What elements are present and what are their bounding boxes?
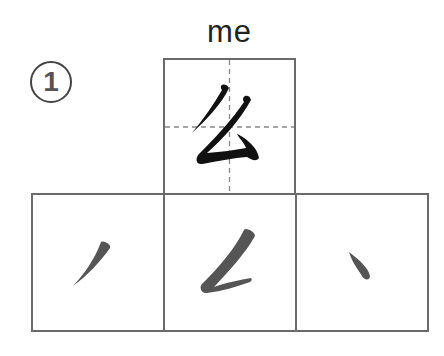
stroke-2-glyph bbox=[201, 229, 255, 293]
stroke-1-glyph bbox=[73, 242, 110, 286]
main-character-glyph bbox=[192, 84, 259, 164]
strokes-canvas bbox=[0, 0, 444, 356]
stroke-3-glyph bbox=[349, 252, 370, 279]
